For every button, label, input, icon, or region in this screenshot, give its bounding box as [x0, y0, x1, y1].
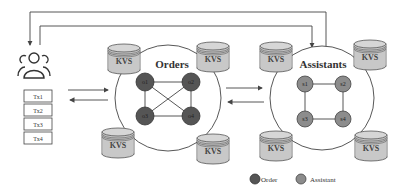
order-node: o1 [136, 73, 154, 91]
kvs-database-icon: KVS [197, 134, 229, 164]
users-icon [18, 53, 50, 78]
svg-text:s2: s2 [340, 81, 345, 87]
tx-label: Tx1 [33, 94, 43, 100]
assistants-cluster: Assistants s1 s2 s3 s4 KVS KVS KVS [260, 40, 387, 161]
svg-text:KVS: KVS [362, 53, 379, 62]
svg-text:s4: s4 [340, 116, 345, 122]
kvs-database-icon: KVS [355, 131, 387, 161]
legend-swatch-assistant [296, 174, 306, 184]
order-node: o3 [136, 107, 154, 125]
assistants-title: Assistants [299, 58, 347, 70]
svg-text:KVS: KVS [116, 57, 133, 66]
kvs-database-icon: KVS [260, 131, 292, 161]
svg-text:o1: o1 [142, 79, 148, 85]
svg-text:KVS: KVS [205, 147, 222, 156]
svg-text:s3: s3 [302, 116, 307, 122]
tx-label: Tx4 [33, 136, 43, 142]
legend-label-order: Order [261, 176, 278, 184]
svg-text:o4: o4 [188, 113, 194, 119]
orders-title: Orders [155, 58, 189, 70]
assistant-node: s3 [297, 111, 313, 127]
svg-text:KVS: KVS [205, 55, 222, 64]
transaction-list: Tx1 Tx2 Tx3 Tx4 [24, 90, 52, 144]
kvs-database-icon: KVS [197, 42, 229, 72]
assistant-node: s2 [335, 76, 351, 92]
kvs-database-icon: KVS [102, 128, 134, 158]
svg-text:KVS: KVS [268, 55, 285, 64]
svg-text:KVS: KVS [268, 144, 285, 153]
svg-text:s1: s1 [302, 81, 307, 87]
legend-label-assistant: Assistant [310, 176, 336, 184]
assistant-node: s4 [335, 111, 351, 127]
svg-text:KVS: KVS [110, 141, 127, 150]
kvs-database-icon: KVS [260, 42, 292, 72]
tx-label: Tx2 [33, 108, 43, 114]
order-node: o2 [182, 73, 200, 91]
svg-text:o3: o3 [142, 113, 148, 119]
orders-assistants-arrows [226, 88, 264, 102]
assistant-node: s1 [297, 76, 313, 92]
svg-text:KVS: KVS [363, 144, 380, 153]
svg-text:o2: o2 [188, 79, 194, 85]
tx-label: Tx3 [33, 122, 43, 128]
legend-swatch-order [250, 174, 260, 184]
order-node: o4 [182, 107, 200, 125]
kvs-database-icon: KVS [354, 40, 386, 70]
kvs-database-icon: KVS [108, 44, 140, 74]
orders-cluster: Orders o1 o2 o3 o4 KVS KVS [102, 42, 229, 164]
client-orders-arrows [68, 90, 108, 100]
legend: Order Assistant [250, 174, 336, 184]
diagram-canvas: Tx1 Tx2 Tx3 Tx4 Orders o1 [0, 0, 408, 195]
